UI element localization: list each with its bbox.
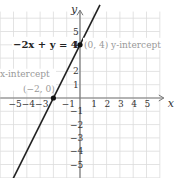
y-intercept-label: (0, 4) y-intercept xyxy=(84,40,161,50)
y-tick-label: 1 xyxy=(73,80,79,90)
x-tick-label: −3 xyxy=(35,99,49,109)
y-tick-label: −1 xyxy=(70,106,83,116)
x-tick-label: 3 xyxy=(118,99,124,109)
line-chart: xy−5−4−3−1123455421−1−2−3−4−5−2x + y = 4… xyxy=(0,0,176,178)
x-intercept-coord: (−2, 0) xyxy=(23,84,55,94)
x-intercept-label: x-intercept xyxy=(0,69,50,79)
intercept-point xyxy=(77,42,82,47)
x-tick-label: −5 xyxy=(9,99,23,109)
intercept-point xyxy=(51,95,56,100)
y-tick-label: −5 xyxy=(70,160,84,170)
x-tick-label: 4 xyxy=(131,99,137,109)
y-tick-label: −4 xyxy=(70,146,84,156)
equation-label: −2x + y = 4 xyxy=(13,39,78,50)
x-tick-label: −4 xyxy=(22,99,36,109)
x-tick-label: 1 xyxy=(91,99,97,109)
y-tick-label: 5 xyxy=(73,27,79,37)
x-axis-label: x xyxy=(168,97,175,110)
y-tick-label: −3 xyxy=(70,133,84,143)
x-tick-label: 5 xyxy=(145,99,151,109)
y-tick-label: 2 xyxy=(73,66,79,76)
x-tick-label: 2 xyxy=(105,99,111,109)
y-axis-label: y xyxy=(70,3,78,16)
y-tick-label: −2 xyxy=(70,120,83,130)
